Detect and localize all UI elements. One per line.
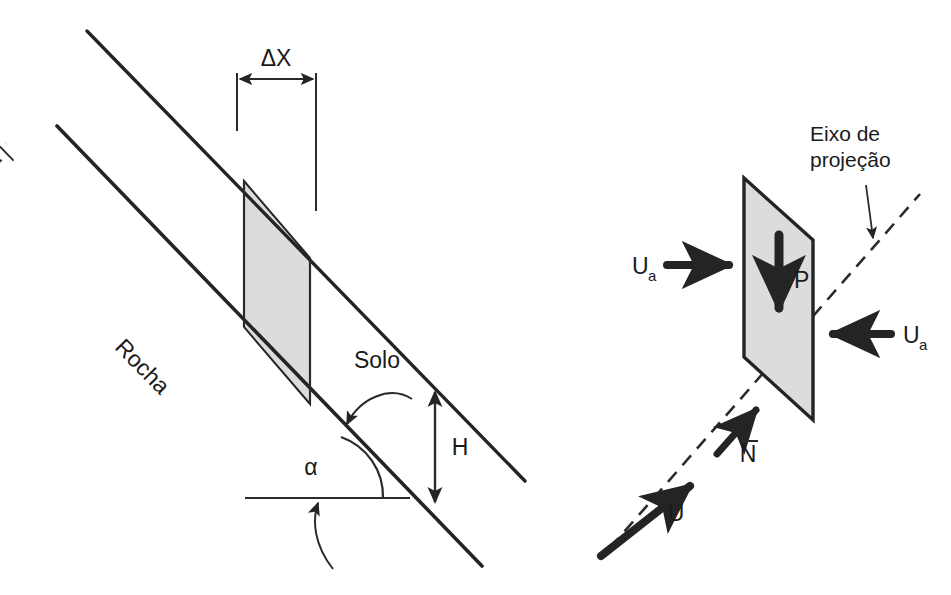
alpha-label: α (304, 454, 317, 480)
normal-label: N (740, 441, 757, 467)
solo-label: Solo (354, 347, 400, 373)
height-label: H (452, 434, 469, 460)
u-force-label: U (668, 500, 685, 526)
delta-x-label: ΔX (261, 45, 292, 71)
ua-left-label: U (632, 253, 649, 279)
normal-label-group: N (739, 441, 758, 467)
diagram-canvas: ΔX Rocha Solo α H P U a U a (0, 0, 951, 595)
weight-label: P (794, 267, 809, 293)
figure-root: ΔX Rocha Solo α H P U a U a (0, 0, 951, 595)
ua-right-label: U (903, 322, 920, 348)
ua-right-subscript: a (919, 336, 928, 353)
projection-axis-title-line1: Eixo de (810, 122, 880, 145)
projection-axis-title-line2: projeção (810, 148, 891, 171)
ua-left-subscript: a (648, 267, 657, 284)
